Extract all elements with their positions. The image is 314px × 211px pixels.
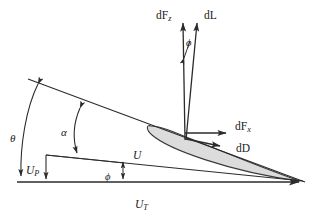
dL-label: dL [204,9,217,21]
diagram-canvas: dFz dL ϕ dFx dD θ α UP U ϕ UT [0,0,314,211]
phi-inflow-label: ϕ [105,171,111,182]
alpha-angle-arc [74,108,80,153]
U-label: U [133,149,142,161]
dD-label: dD [236,142,250,154]
UP-label: UP [26,164,39,178]
dFz-label: dFz [156,9,172,23]
chord-line [28,79,305,182]
dFz-force-arrow [183,23,185,140]
UT-label: UT [135,198,149,211]
blade-element-diagram: dFz dL ϕ dFx dD θ α UP U ϕ UT [0,0,314,211]
phi-force-label: ϕ [186,37,192,48]
theta-angle-arc [21,84,38,176]
alpha-label: α [61,126,67,138]
up-top-connector [46,155,124,163]
theta-label: θ [10,132,16,144]
dFx-label: dFx [235,120,251,134]
